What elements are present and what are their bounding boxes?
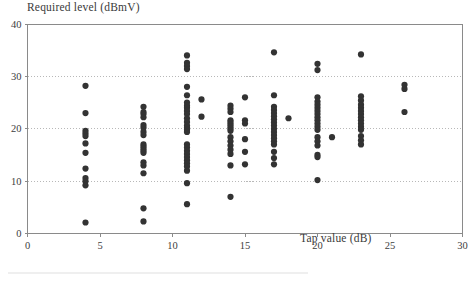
data-point: [358, 141, 364, 147]
data-points: [82, 49, 407, 225]
data-point: [140, 205, 146, 211]
x-tick-label: 0: [25, 240, 30, 251]
x-tick-label: 10: [167, 240, 178, 251]
y-tick-label: 0: [16, 228, 21, 239]
gridlines: [28, 24, 463, 181]
data-point: [314, 61, 320, 67]
data-point: [198, 96, 204, 102]
data-point: [140, 150, 146, 156]
data-point: [82, 83, 88, 89]
data-point: [184, 168, 190, 174]
x-tick-label: 15: [240, 240, 251, 251]
data-point: [314, 67, 320, 73]
data-point: [285, 115, 291, 121]
data-point: [82, 219, 88, 225]
data-point: [227, 194, 233, 200]
data-point: [271, 141, 277, 147]
data-point: [227, 151, 233, 157]
x-axis-label: Tap value (dB): [300, 232, 372, 244]
data-point: [242, 94, 248, 100]
y-tick-label: 20: [11, 123, 22, 134]
tick-labels: 051015202530010203040: [11, 19, 468, 251]
caption-line: [8, 272, 308, 274]
data-point: [82, 110, 88, 116]
caption-placeholder: [8, 272, 428, 280]
x-tick-label: 25: [385, 240, 396, 251]
data-point: [314, 177, 320, 183]
data-point: [358, 127, 364, 133]
data-point: [242, 149, 248, 155]
data-point: [184, 84, 190, 90]
data-point: [198, 114, 204, 120]
axis-frame: [25, 24, 463, 237]
data-point: [184, 66, 190, 72]
data-point: [82, 182, 88, 188]
data-point: [184, 92, 190, 98]
data-point: [271, 155, 277, 161]
data-point: [242, 120, 248, 126]
data-point: [314, 154, 320, 160]
data-point: [271, 161, 277, 167]
data-point: [184, 52, 190, 58]
data-point: [184, 129, 190, 135]
data-point: [242, 136, 248, 142]
data-point: [140, 162, 146, 168]
data-point: [227, 162, 233, 168]
data-point: [314, 127, 320, 133]
x-tick-label: 5: [97, 240, 102, 251]
data-point: [82, 140, 88, 146]
y-tick-label: 30: [11, 71, 22, 82]
data-point: [358, 51, 364, 57]
data-point: [82, 150, 88, 156]
data-point: [242, 161, 248, 167]
data-point: [140, 132, 146, 138]
data-point: [227, 128, 233, 134]
data-point: [401, 86, 407, 92]
data-point: [227, 109, 233, 115]
data-point: [271, 149, 277, 155]
data-point: [271, 92, 277, 98]
data-point: [271, 49, 277, 55]
data-point: [140, 170, 146, 176]
data-point: [184, 201, 190, 207]
scatter-chart-figure: Required level (dBmV) 051015202530010203…: [0, 0, 473, 284]
y-tick-label: 40: [11, 19, 22, 30]
data-point: [314, 142, 320, 148]
data-point: [140, 114, 146, 120]
data-point: [401, 109, 407, 115]
data-point: [140, 218, 146, 224]
plot-canvas: 051015202530010203040: [0, 0, 473, 284]
data-point: [184, 180, 190, 186]
x-tick-label: 30: [457, 240, 468, 251]
data-point: [329, 134, 335, 140]
data-point: [82, 133, 88, 139]
y-tick-label: 10: [11, 176, 22, 187]
data-point: [82, 165, 88, 171]
